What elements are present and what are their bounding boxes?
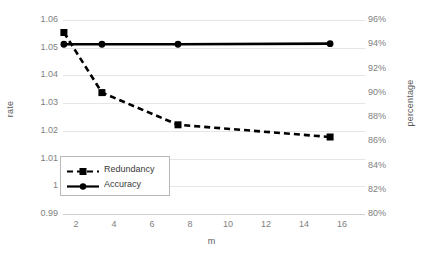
x-tick: 14 — [292, 219, 316, 229]
y-axis-left-title: rate — [5, 89, 15, 129]
chart-legend: Redundancy Accuracy — [60, 156, 170, 196]
chart-figure: 1.06 1.05 1.04 1.03 1.02 1.01 1 0.99 96%… — [0, 0, 423, 259]
x-tick: 2 — [64, 219, 88, 229]
legend-item-redundancy[interactable]: Redundancy — [66, 161, 164, 176]
legend-label: Accuracy — [104, 179, 141, 189]
legend-swatch-solid-circle-icon — [66, 178, 100, 189]
x-tick: 16 — [330, 219, 354, 229]
y-axis-right-title: percentage — [405, 73, 415, 133]
x-axis-ticks: 2 4 6 8 10 12 14 16 — [0, 0, 423, 259]
x-tick: 6 — [140, 219, 164, 229]
x-tick: 4 — [102, 219, 126, 229]
legend-swatch-dashed-square-icon — [66, 163, 100, 174]
legend-label: Redundancy — [104, 164, 155, 174]
legend-item-accuracy[interactable]: Accuracy — [66, 176, 164, 191]
x-axis-title: m — [0, 236, 423, 246]
x-tick: 12 — [254, 219, 278, 229]
x-tick: 8 — [178, 219, 202, 229]
x-tick: 10 — [216, 219, 240, 229]
